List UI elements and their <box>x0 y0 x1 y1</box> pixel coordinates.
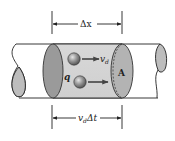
left-cross-section <box>43 44 63 98</box>
tube-right-end <box>156 44 167 98</box>
delta-x-label: Δx <box>80 19 92 29</box>
area-label: A <box>117 68 126 78</box>
charge-sphere-bottom <box>74 76 86 88</box>
vd-dt-label: vdΔt <box>78 113 97 124</box>
charge-label: q <box>64 72 70 82</box>
conductor-diagram: vd q A Δx vdΔt <box>0 0 175 141</box>
tube-left-end <box>12 44 25 97</box>
diagram-canvas: vd q A Δx vdΔt <box>0 0 175 141</box>
charge-sphere-top <box>68 53 80 65</box>
tube-left-end-fill <box>12 67 25 97</box>
